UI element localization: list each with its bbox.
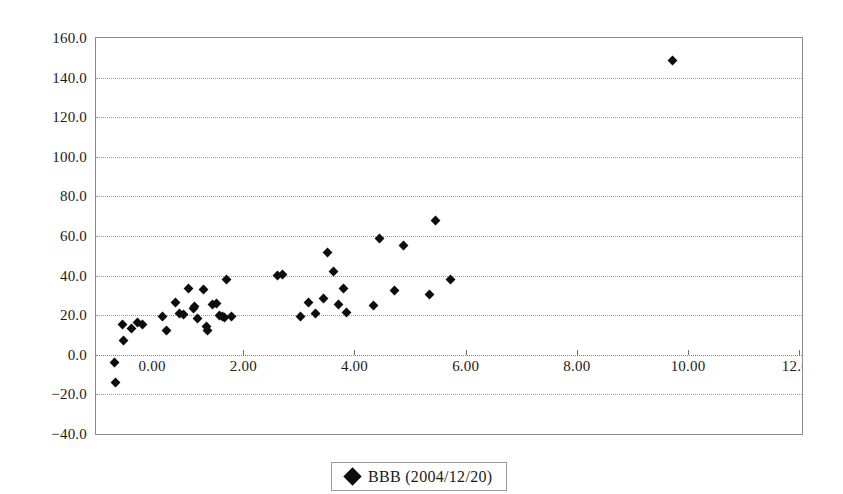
x-axis-tick-label: 12.00: [782, 359, 802, 374]
scatter-chart: 0.002.004.006.008.0010.0012.00 160.0140.…: [0, 0, 843, 494]
x-axis-tick-label: 6.00: [452, 359, 479, 374]
data-point: [425, 289, 435, 299]
x-axis-tick-label: 0.00: [139, 359, 166, 374]
gridline-y-60.0: [96, 236, 802, 237]
x-axis-tick-mark: [466, 350, 467, 355]
data-point: [323, 248, 333, 258]
y-axis-tick-label: 0.0: [68, 347, 96, 362]
y-axis-tick-label: 60.0: [60, 229, 96, 244]
x-axis-tick-mark: [577, 350, 578, 355]
y-axis-tick-label: 80.0: [60, 189, 96, 204]
data-point: [668, 56, 678, 66]
y-axis-tick-label: 20.0: [60, 308, 96, 323]
x-axis-tick-label: 2.00: [230, 359, 257, 374]
gridline-y--20.0: [96, 394, 802, 395]
data-point: [334, 299, 344, 309]
y-axis-tick-label: 40.0: [60, 268, 96, 283]
x-axis-tick-label: 8.00: [563, 359, 590, 374]
plot-frame: 0.002.004.006.008.0010.0012.00 160.0140.…: [95, 37, 803, 435]
legend-label: BBB (2004/12/20): [368, 469, 492, 485]
x-axis-tick-mark: [354, 350, 355, 355]
y-axis-tick-label: 140.0: [52, 70, 96, 85]
gridline-y-100.0: [96, 157, 802, 158]
gridline-y-80.0: [96, 196, 802, 197]
data-point: [390, 285, 400, 295]
y-axis-tick-label: 120.0: [52, 110, 96, 125]
y-axis-tick-label: 160.0: [52, 31, 96, 46]
data-point: [158, 311, 168, 321]
y-axis-tick-label: 100.0: [52, 149, 96, 164]
legend-diamond-icon: [343, 467, 361, 485]
x-axis-tick-mark: [799, 350, 800, 355]
x-axis-tick-mark: [688, 350, 689, 355]
data-point: [311, 308, 321, 318]
gridline-y-0.0: [96, 355, 802, 356]
data-point: [398, 241, 408, 251]
gridline-y-120.0: [96, 117, 802, 118]
y-axis-tick-label: −20.0: [51, 387, 96, 402]
gridline-y-140.0: [96, 78, 802, 79]
x-axis-tick-label: 10.00: [671, 359, 706, 374]
data-point: [295, 311, 305, 321]
data-point: [319, 293, 329, 303]
data-point: [430, 215, 440, 225]
x-axis-tick-mark: [243, 350, 244, 355]
data-point: [338, 284, 348, 294]
data-point: [162, 325, 172, 335]
data-point: [226, 311, 236, 321]
data-point: [369, 300, 379, 310]
data-point: [184, 284, 194, 294]
data-point: [111, 378, 121, 388]
data-point: [119, 336, 129, 346]
data-point: [171, 297, 181, 307]
gridline-y-20.0: [96, 315, 802, 316]
data-point: [304, 297, 314, 307]
data-point: [109, 358, 119, 368]
y-axis-tick-label: −40.0: [51, 427, 96, 442]
data-point: [198, 285, 208, 295]
chart-legend: BBB (2004/12/20): [331, 462, 507, 491]
plot-area: 0.002.004.006.008.0010.0012.00: [96, 38, 802, 434]
x-axis-tick-label: 4.00: [341, 359, 368, 374]
